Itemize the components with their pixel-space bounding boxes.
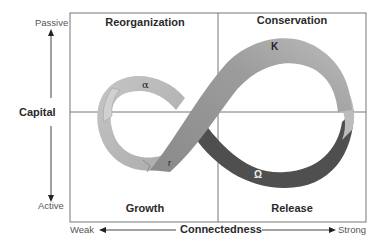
quadrant-label-growth: Growth: [95, 202, 195, 214]
arrow-up-icon: [48, 29, 54, 36]
k-symbol: K: [271, 41, 279, 52]
quadrant-label-conservation: Conservation: [222, 14, 362, 26]
omega-symbol: Ω: [254, 169, 262, 180]
arrow-right-icon: [329, 227, 336, 233]
arrow-left-icon: [99, 227, 106, 233]
x-axis-title: Connectedness: [180, 223, 262, 235]
x-axis-left-label: Weak: [70, 224, 94, 235]
quadrant-label-release: Release: [222, 202, 362, 214]
x-axis-right-label: Strong: [338, 224, 366, 235]
r-symbol: r: [168, 158, 171, 168]
y-axis-title: Capital: [19, 106, 56, 118]
omega-band: [195, 110, 354, 188]
y-axis-top-label: Passive: [35, 17, 68, 28]
alpha-symbol: α: [142, 79, 149, 90]
quadrant-label-reorganization: Reorganization: [95, 16, 195, 28]
k-band: [150, 38, 352, 172]
y-axis-bottom-label: Active: [38, 200, 64, 211]
